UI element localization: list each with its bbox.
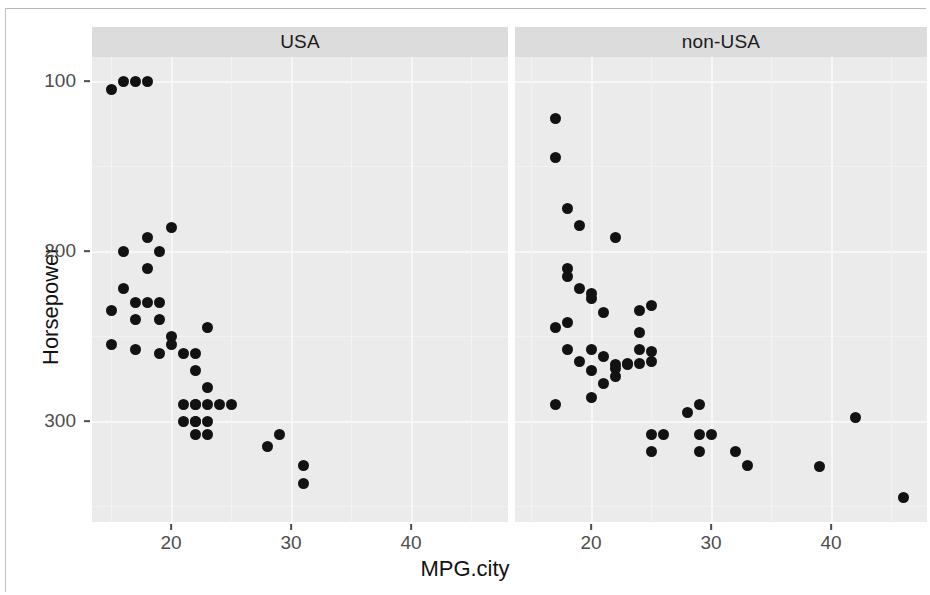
data-point — [550, 113, 561, 124]
data-point — [202, 429, 213, 440]
data-point — [130, 297, 141, 308]
x-axis-tick-mark — [410, 524, 412, 530]
data-point — [562, 317, 573, 328]
gridline-horizontal-major — [515, 421, 927, 423]
x-axis-tick-label: 40 — [400, 532, 421, 554]
data-point — [646, 300, 657, 311]
data-point — [634, 327, 645, 338]
y-axis-tick-mark — [84, 80, 90, 82]
y-axis-tick-mark — [84, 420, 90, 422]
data-point — [202, 416, 213, 427]
data-point — [562, 344, 573, 355]
data-point — [598, 307, 609, 318]
data-point — [202, 399, 213, 410]
gridline-horizontal-minor — [92, 506, 508, 507]
x-axis-tick-label: 30 — [700, 532, 721, 554]
data-point — [262, 441, 273, 452]
y-axis-tick-label: 200 — [16, 240, 76, 262]
x-axis-tick-label: 20 — [160, 532, 181, 554]
data-point — [106, 305, 117, 316]
data-point — [694, 446, 705, 457]
data-point — [658, 429, 669, 440]
data-point — [562, 271, 573, 282]
data-point — [106, 339, 117, 350]
data-point — [634, 305, 645, 316]
panel-non-usa — [515, 57, 927, 522]
data-point — [610, 371, 621, 382]
data-point — [586, 293, 597, 304]
gridline-vertical-major — [711, 57, 713, 522]
gridline-vertical-minor — [531, 57, 532, 522]
data-point — [214, 399, 225, 410]
data-point — [598, 351, 609, 362]
data-point — [598, 378, 609, 389]
data-point — [586, 365, 597, 376]
data-point — [130, 314, 141, 325]
gridline-horizontal-major — [92, 421, 508, 423]
data-point — [190, 348, 201, 359]
data-point — [142, 263, 153, 274]
x-axis-tick-mark — [830, 524, 832, 530]
data-point — [682, 407, 693, 418]
x-axis-tick-mark — [710, 524, 712, 530]
gridline-vertical-major — [291, 57, 293, 522]
y-axis-tick-label: 100 — [16, 70, 76, 92]
y-axis-tick-label: 300 — [16, 410, 76, 432]
data-point — [178, 399, 189, 410]
data-point — [274, 429, 285, 440]
data-point — [634, 358, 645, 369]
data-point — [142, 76, 153, 87]
data-point — [166, 339, 177, 350]
x-axis-tick-mark — [290, 524, 292, 530]
x-axis-title: MPG.city — [0, 556, 930, 582]
x-axis-tick-mark — [170, 524, 172, 530]
data-point — [898, 492, 909, 503]
gridline-vertical-minor — [891, 57, 892, 522]
data-point — [166, 222, 177, 233]
data-point — [118, 283, 129, 294]
data-point — [610, 232, 621, 243]
gridline-vertical-minor — [351, 57, 352, 522]
gridline-vertical-minor — [471, 57, 472, 522]
gridline-horizontal-major — [515, 251, 927, 253]
data-point — [154, 297, 165, 308]
data-point — [646, 429, 657, 440]
gridline-vertical-major — [831, 57, 833, 522]
data-point — [706, 429, 717, 440]
faceted-scatter-plot: Horsepower 300200100 USA non-USA 2030402… — [0, 0, 930, 595]
data-point — [190, 365, 201, 376]
data-point — [622, 359, 633, 370]
data-point — [562, 203, 573, 214]
data-point — [154, 348, 165, 359]
gridline-horizontal-minor — [92, 336, 508, 337]
data-point — [130, 76, 141, 87]
data-point — [202, 382, 213, 393]
data-point — [646, 356, 657, 367]
gridline-vertical-major — [411, 57, 413, 522]
data-point — [154, 246, 165, 257]
gridline-horizontal-major — [515, 81, 927, 83]
gridline-horizontal-minor — [515, 336, 927, 337]
facet-strip-usa: USA — [92, 27, 508, 57]
y-axis-tick-mark — [84, 250, 90, 252]
data-point — [130, 344, 141, 355]
data-point — [646, 446, 657, 457]
data-point — [298, 460, 309, 471]
data-point — [226, 399, 237, 410]
data-point — [586, 392, 597, 403]
x-axis-tick-label: 20 — [580, 532, 601, 554]
x-axis-tick-label: 40 — [820, 532, 841, 554]
data-point — [742, 460, 753, 471]
gridline-horizontal-minor — [515, 166, 927, 167]
data-point — [730, 446, 741, 457]
data-point — [106, 84, 117, 95]
gridline-horizontal-minor — [515, 506, 927, 507]
data-point — [634, 344, 645, 355]
data-point — [550, 399, 561, 410]
facet-strip-usa-label: USA — [280, 31, 320, 53]
y-axis-title: Horsepower — [38, 246, 64, 365]
data-point — [550, 152, 561, 163]
data-point — [178, 348, 189, 359]
x-axis-tick-mark — [590, 524, 592, 530]
data-point — [586, 344, 597, 355]
